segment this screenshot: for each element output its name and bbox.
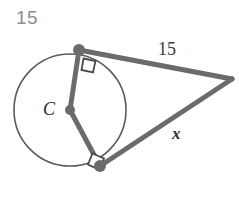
radius-to-upper-tangent-segment xyxy=(70,50,79,110)
lower-tangent-segment xyxy=(100,79,232,166)
geometry-diagram-svg xyxy=(0,0,239,200)
circle-center-dot xyxy=(65,105,75,115)
geometry-figure: 15 15 x C xyxy=(0,0,239,200)
upper-right-angle-marker xyxy=(82,59,96,73)
lower-tangent-point-dot xyxy=(94,160,106,172)
upper-tangent-point-dot xyxy=(73,44,85,56)
circle-center-label: C xyxy=(43,100,55,118)
tangent-length-label: 15 xyxy=(158,40,176,58)
unknown-length-label: x xyxy=(172,125,181,142)
problem-number-label: 15 xyxy=(16,8,38,27)
